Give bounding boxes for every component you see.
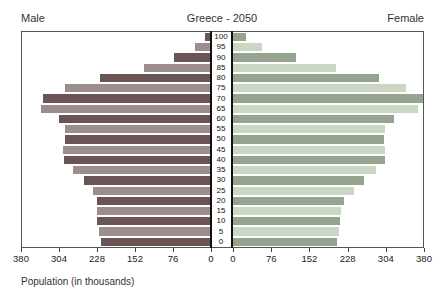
female-bar-age-10	[233, 217, 340, 225]
female-bar-row	[233, 104, 423, 114]
male-bar-row	[22, 52, 210, 62]
male-bar-row	[22, 124, 210, 134]
male-axis-ticks: 076152228304380	[21, 248, 211, 268]
male-bar-age-20	[97, 197, 210, 205]
male-side-label: Male	[21, 12, 45, 24]
male-bar-age-55	[65, 125, 210, 133]
female-side-label: Female	[387, 12, 424, 24]
female-bar-age-45	[233, 146, 385, 154]
age-label-65: 65	[211, 104, 231, 114]
male-bar-age-25	[93, 187, 210, 195]
male-bar-row	[22, 93, 210, 103]
female-bar-row	[233, 196, 423, 206]
age-label-50: 50	[211, 134, 231, 144]
female-bar-age-85	[233, 64, 336, 72]
age-label-55: 55	[211, 124, 231, 134]
male-bar-row	[22, 104, 210, 114]
male-bar-age-60	[59, 115, 210, 123]
female-bar-row	[233, 216, 423, 226]
male-bar-age-100	[205, 33, 210, 41]
age-label-90: 90	[211, 52, 231, 62]
female-bars-group	[233, 32, 423, 247]
female-bar-row	[233, 145, 423, 155]
male-bar-age-30	[84, 176, 210, 184]
age-label-100: 100	[211, 32, 231, 42]
male-tick-label-152: 152	[127, 253, 143, 264]
male-tick-mark-152	[135, 248, 136, 252]
male-bar-row	[22, 63, 210, 73]
male-bar-row	[22, 42, 210, 52]
age-label-95: 95	[211, 42, 231, 52]
female-bar-age-40	[233, 156, 385, 164]
female-bar-row	[233, 124, 423, 134]
male-bar-age-85	[144, 64, 210, 72]
female-bar-age-90	[233, 53, 296, 61]
male-tick-mark-380	[21, 248, 22, 252]
male-bar-row	[22, 175, 210, 185]
age-label-30: 30	[211, 175, 231, 185]
female-bar-age-0	[233, 238, 337, 246]
female-bar-age-80	[233, 74, 379, 82]
male-tick-label-304: 304	[51, 253, 67, 264]
male-tick-label-76: 76	[168, 253, 179, 264]
age-label-40: 40	[211, 155, 231, 165]
female-bar-age-5	[233, 227, 339, 235]
female-tick-mark-380	[424, 248, 425, 252]
male-bar-age-70	[43, 94, 210, 102]
age-label-45: 45	[211, 145, 231, 155]
male-bar-row	[22, 196, 210, 206]
male-bars-group	[22, 32, 210, 247]
male-bar-age-15	[97, 207, 210, 215]
age-label-25: 25	[211, 186, 231, 196]
male-bar-age-35	[73, 166, 210, 174]
age-label-75: 75	[211, 83, 231, 93]
female-bar-row	[233, 73, 423, 83]
male-bar-row	[22, 114, 210, 124]
male-tick-label-228: 228	[89, 253, 105, 264]
female-tick-mark-152	[309, 248, 310, 252]
female-bar-row	[233, 93, 423, 103]
female-tick-label-380: 380	[416, 253, 432, 264]
female-bar-row	[233, 63, 423, 73]
male-bar-row	[22, 83, 210, 93]
male-bar-age-45	[63, 146, 210, 154]
male-bar-row	[22, 226, 210, 236]
male-bar-age-75	[65, 84, 210, 92]
female-bar-row	[233, 52, 423, 62]
population-pyramid-chart: Male Greece - 2050 Female 10095908580757…	[0, 0, 447, 299]
male-bar-row	[22, 186, 210, 196]
age-label-70: 70	[211, 93, 231, 103]
male-bar-row	[22, 32, 210, 42]
female-bar-row	[233, 134, 423, 144]
female-bar-row	[233, 165, 423, 175]
male-tick-mark-228	[97, 248, 98, 252]
female-bar-row	[233, 226, 423, 236]
female-bar-age-95	[233, 43, 262, 51]
female-tick-mark-76	[271, 248, 272, 252]
female-bar-age-25	[233, 187, 354, 195]
female-bar-row	[233, 237, 423, 247]
female-bar-age-65	[233, 105, 418, 113]
male-bar-row	[22, 165, 210, 175]
age-label-20: 20	[211, 196, 231, 206]
female-tick-mark-228	[348, 248, 349, 252]
male-bar-age-90	[174, 53, 210, 61]
female-tick-label-152: 152	[301, 253, 317, 264]
female-bar-row	[233, 175, 423, 185]
male-bar-row	[22, 73, 210, 83]
male-bar-age-95	[195, 43, 210, 51]
age-label-10: 10	[211, 216, 231, 226]
male-bar-age-50	[65, 135, 210, 143]
female-bar-age-70	[233, 94, 423, 102]
male-bar-age-10	[97, 217, 210, 225]
female-tick-mark-304	[386, 248, 387, 252]
female-bar-age-75	[233, 84, 406, 92]
female-bar-row	[233, 186, 423, 196]
male-tick-mark-76	[173, 248, 174, 252]
female-tick-label-228: 228	[340, 253, 356, 264]
female-bar-age-60	[233, 115, 394, 123]
axis-caption: Population (in thousands)	[21, 276, 134, 287]
age-label-85: 85	[211, 63, 231, 73]
age-labels-column: 1009590858075706560555045403530252015105…	[211, 32, 231, 247]
age-label-35: 35	[211, 165, 231, 175]
